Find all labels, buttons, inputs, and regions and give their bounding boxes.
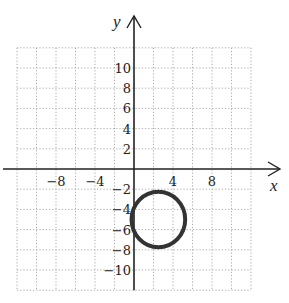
x-tick-label: 8 [208, 174, 216, 189]
x-tick-label: 4 [169, 174, 177, 189]
x-axis-label: x [269, 176, 278, 195]
y-tick-label: −4 [112, 202, 131, 217]
y-tick-label: 2 [123, 142, 131, 157]
y-tick-label: 10 [114, 61, 131, 76]
y-axis-label: y [111, 12, 121, 31]
circle-curve [132, 192, 186, 248]
y-tick-label: 8 [123, 81, 131, 96]
coordinate-plane: −8−448108642−2−4−6−8−10 x y [0, 0, 289, 303]
y-tick-label: −6 [112, 223, 131, 238]
y-tick-label: 6 [123, 101, 131, 116]
axes [3, 16, 280, 290]
y-tick-label: −8 [112, 243, 131, 258]
x-tick-label: −4 [85, 174, 104, 189]
y-tick-label: −2 [112, 182, 131, 197]
plotted-shapes [132, 192, 186, 248]
y-tick-label: 4 [123, 122, 131, 137]
y-tick-label: −10 [104, 263, 131, 278]
x-tick-label: −8 [46, 174, 65, 189]
